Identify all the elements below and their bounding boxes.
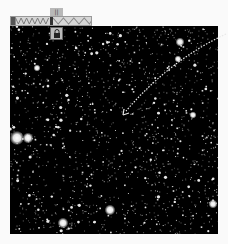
tab-label: || <box>54 8 58 16</box>
toolbar-tab-handle[interactable]: || <box>50 8 63 16</box>
zigzag-light-segment[interactable] <box>53 17 92 25</box>
lock-glyph-icon <box>53 29 61 38</box>
image-toolbar <box>10 16 92 26</box>
zigzag-dark-segment[interactable] <box>11 17 50 25</box>
star-field-canvas <box>10 26 218 234</box>
star-field-image[interactable] <box>10 26 218 234</box>
padlock-icon[interactable] <box>50 27 63 40</box>
